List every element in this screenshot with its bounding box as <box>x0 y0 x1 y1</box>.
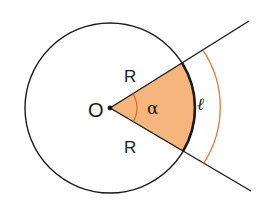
label-arc-length: ℓ <box>197 94 204 114</box>
label-angle: α <box>147 98 159 118</box>
center-point <box>108 106 113 111</box>
arc-length-marker <box>203 51 220 163</box>
sector-diagram: R R O α ℓ <box>0 0 268 208</box>
label-radius-lower: R <box>124 138 136 157</box>
label-center: O <box>88 99 104 121</box>
label-radius-upper: R <box>124 67 136 86</box>
diagram-svg: R R O α ℓ <box>0 0 268 208</box>
